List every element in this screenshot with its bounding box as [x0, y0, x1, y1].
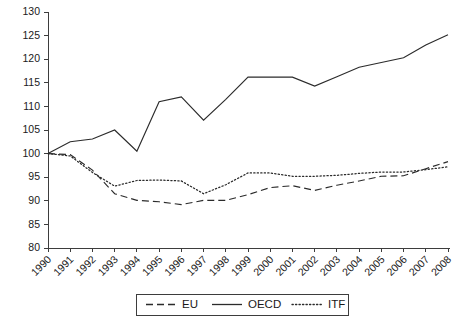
x-tick-labels: 1990199119921993199419951996199719981999… [28, 253, 453, 278]
x-tick-label: 2004 [340, 253, 365, 278]
x-tick-label: 2007 [406, 253, 431, 278]
y-tick-label: 130 [22, 5, 40, 17]
x-tick-label: 2001 [273, 253, 298, 278]
y-tick-label: 115 [23, 76, 40, 88]
x-tick-label: 1990 [28, 253, 53, 278]
series-line-itf [48, 154, 448, 194]
x-tick-label: 2003 [317, 253, 342, 278]
x-tick-label: 1999 [228, 253, 253, 278]
y-tick-label: 110 [23, 100, 40, 112]
y-tick-labels: 80859095100105110115120125130 [22, 5, 40, 253]
y-tick-label: 100 [22, 147, 40, 159]
x-tick-label: 2000 [251, 253, 276, 278]
x-tick-label: 1992 [73, 253, 98, 278]
series-group [48, 35, 448, 205]
series-line-eu [48, 154, 448, 205]
x-tick-label: 1995 [140, 253, 165, 278]
x-tick-label: 1996 [162, 253, 187, 278]
chart-legend: EU OECD ITF [136, 294, 348, 315]
y-tick-label: 90 [28, 194, 40, 206]
y-tick-label: 120 [22, 52, 40, 64]
y-tick-marks [44, 12, 48, 248]
line-chart: 80859095100105110115120125130 1990199119… [0, 0, 463, 320]
series-line-oecd [48, 35, 448, 154]
x-tick-label: 1994 [117, 253, 142, 278]
x-tick-label: 2005 [362, 253, 387, 278]
x-tick-label: 1991 [51, 253, 76, 278]
chart-canvas: 80859095100105110115120125130 1990199119… [0, 0, 463, 320]
x-tick-label: 1997 [184, 253, 209, 278]
y-tick-label: 105 [22, 123, 40, 135]
legend-label-itf: ITF [328, 298, 345, 310]
x-tick-label: 1998 [206, 253, 231, 278]
x-tick-label: 1993 [95, 253, 120, 278]
y-axis-group: 80859095100105110115120125130 [22, 5, 48, 253]
y-tick-label: 85 [28, 218, 40, 230]
y-tick-label: 95 [28, 170, 40, 182]
legend-label-oecd: OECD [248, 298, 281, 310]
x-tick-label: 2008 [428, 253, 453, 278]
legend-label-eu: EU [182, 298, 198, 310]
y-tick-label: 80 [28, 241, 40, 253]
x-tick-label: 2002 [295, 253, 320, 278]
x-tick-label: 2006 [384, 253, 409, 278]
y-tick-label: 125 [22, 29, 40, 41]
x-axis-group: 1990199119921993199419951996199719981999… [28, 248, 453, 278]
x-tick-marks [48, 248, 448, 252]
